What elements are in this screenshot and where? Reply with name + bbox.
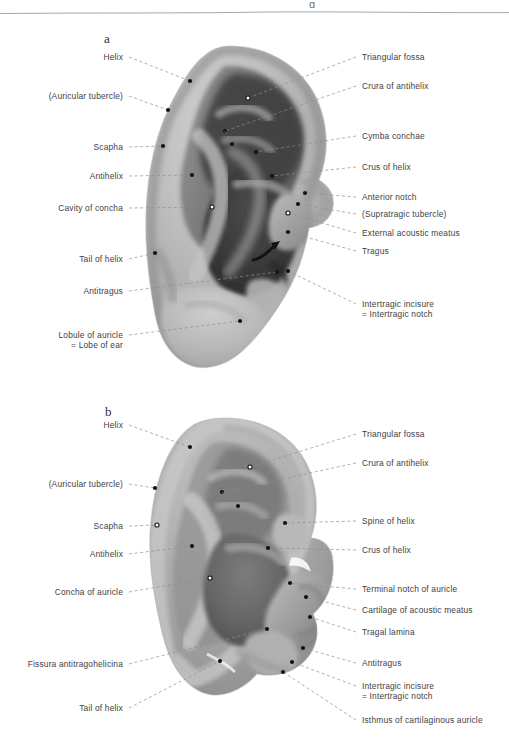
- label-b-triangular-fossa: Triangular fossa: [362, 429, 425, 439]
- label-text: (Auricular tubercle): [49, 91, 123, 101]
- label-text: Crura of antihelix: [362, 458, 429, 468]
- label-a-crus-of-helix: Crus of helix: [362, 162, 411, 172]
- label-text: Crura of antihelix: [362, 81, 429, 91]
- label-text: Crus of helix: [362, 162, 411, 172]
- ear-cartilage-illustration: [133, 416, 345, 728]
- label-text: Anterior notch: [362, 192, 417, 202]
- label-b-antihelix: Antihelix: [0, 549, 123, 559]
- label-text-alt: = Intertragic notch: [362, 309, 434, 319]
- label-text: Scapha: [94, 521, 124, 531]
- label-text: Intertragic incisure: [362, 681, 434, 691]
- label-text: Triangular fossa: [362, 52, 425, 62]
- label-b-terminal-notch-of-auricle: Terminal notch of auricle: [362, 584, 457, 594]
- label-b-antitragus: Antitragus: [362, 658, 402, 668]
- label-b-cartilage-of-acoustic-meatus: Cartilage of acoustic meatus: [362, 605, 473, 615]
- label-a-scapha: Scapha: [0, 142, 123, 152]
- label-text: Antitragus: [83, 286, 123, 296]
- label-text: Scapha: [94, 142, 124, 152]
- label-a-anterior-notch: Anterior notch: [362, 192, 417, 202]
- label-text: External acoustic meatus: [362, 228, 460, 238]
- label-b-spine-of-helix: Spine of helix: [362, 516, 415, 526]
- label-text: Tail of helix: [79, 254, 123, 264]
- page-header-glyph: g: [305, 0, 319, 8]
- label-text: Antihelix: [90, 549, 123, 559]
- label-text: Helix: [103, 52, 123, 62]
- label-a-helix: Helix: [0, 52, 123, 62]
- label-a-tragus: Tragus: [362, 246, 389, 256]
- label-text: Terminal notch of auricle: [362, 584, 457, 594]
- label-b-helix: Helix: [0, 420, 123, 430]
- label-b-tragal-lamina: Tragal lamina: [362, 627, 415, 637]
- panel-letter-a: a: [104, 31, 110, 47]
- label-text: Tragal lamina: [362, 627, 415, 637]
- label-text: Antitragus: [362, 658, 402, 668]
- label-a-tail-of-helix: Tail of helix: [0, 254, 123, 264]
- label-text: Antihelix: [90, 171, 123, 181]
- label-text: Cymba conchae: [362, 131, 425, 141]
- label-text-alt: = Intertragic notch: [362, 691, 434, 701]
- label-b-fissura-antitragohelicina: Fissura antitragohelicina: [0, 659, 123, 669]
- label-b-isthmus-of-cartilaginous-auricle: Isthmus of cartilaginous auricle: [362, 715, 483, 725]
- label-text: (Supratragic tubercle): [362, 209, 447, 219]
- label-text: Lobule of auricle: [58, 330, 123, 340]
- label-text: Concha of auricle: [55, 587, 123, 597]
- anatomy-plate: g: [0, 0, 509, 746]
- label-text: Tragus: [362, 246, 389, 256]
- label-text: Isthmus of cartilaginous auricle: [362, 715, 483, 725]
- label-a-external-acoustic-meatus: External acoustic meatus: [362, 228, 460, 238]
- label-a-cavity-of-concha: Cavity of concha: [0, 203, 123, 213]
- label-a-triangular-fossa: Triangular fossa: [362, 52, 425, 62]
- page-header-rule: [0, 11, 509, 14]
- label-b-scapha: Scapha: [0, 521, 123, 531]
- label-a-antihelix: Antihelix: [0, 171, 123, 181]
- label-b-concha-of-auricle: Concha of auricle: [0, 587, 123, 597]
- label-text-alt: = Lobe of ear: [0, 340, 123, 350]
- label-text: Cartilage of acoustic meatus: [362, 605, 473, 615]
- label-a-crura-of-antihelix: Crura of antihelix: [362, 81, 429, 91]
- label-text: Intertragic incisure: [362, 299, 434, 309]
- panel-letter-b: b: [105, 404, 112, 420]
- label-b-crura-of-antihelix: Crura of antihelix: [362, 458, 429, 468]
- label-text: Spine of helix: [362, 516, 415, 526]
- label-text: Cavity of concha: [58, 203, 123, 213]
- label-b-tail-of-helix: Tail of helix: [0, 703, 123, 713]
- label-text: Crus of helix: [362, 545, 411, 555]
- label-b-auricular-tubercle: (Auricular tubercle): [0, 479, 123, 489]
- label-a-antitragus: Antitragus: [0, 286, 123, 296]
- label-text: Triangular fossa: [362, 429, 425, 439]
- ear-surface-illustration: [133, 44, 339, 372]
- label-text: Fissura antitragohelicina: [28, 659, 123, 669]
- label-a-supratragic-tubercle: (Supratragic tubercle): [362, 209, 447, 219]
- label-text: (Auricular tubercle): [49, 479, 123, 489]
- label-a-intertragic-incisure: Intertragic incisure= Intertragic notch: [362, 299, 434, 320]
- label-b-crus-of-helix: Crus of helix: [362, 545, 411, 555]
- label-text: Tail of helix: [79, 703, 123, 713]
- label-text: Helix: [103, 420, 123, 430]
- label-b-intertragic-incisure: Intertragic incisure= Intertragic notch: [362, 681, 434, 702]
- label-a-auricular-tubercle: (Auricular tubercle): [0, 91, 123, 101]
- label-a-cymba-conchae: Cymba conchae: [362, 131, 425, 141]
- label-a-lobule-of-auricle: Lobule of auricle= Lobe of ear: [0, 330, 123, 351]
